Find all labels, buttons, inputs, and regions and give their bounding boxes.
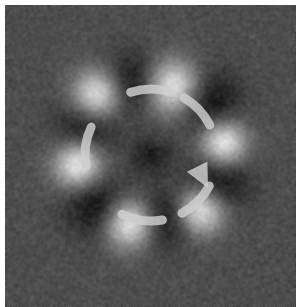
noise-texture (5, 5, 296, 307)
stimulus-image (0, 0, 296, 307)
noise-field (5, 5, 296, 307)
